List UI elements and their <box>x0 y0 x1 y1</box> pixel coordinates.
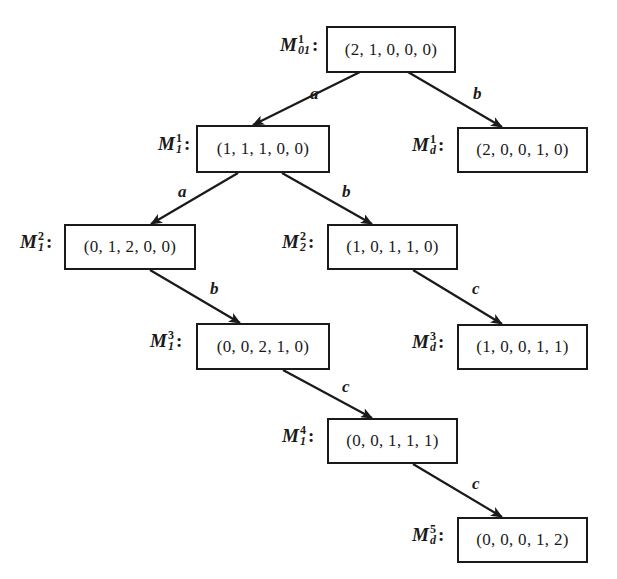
node-box-M01-1: (2, 1, 0, 0, 0) <box>326 26 456 73</box>
node-subscript: d <box>430 145 436 156</box>
node-label-M1-1: M 11 : <box>158 133 190 155</box>
edge-M01-Md-1 <box>408 72 502 127</box>
edge-label: c <box>472 279 480 299</box>
node-subscript: 1 <box>176 144 182 155</box>
edge-label: b <box>210 279 219 299</box>
node-box-M1-2: (0, 1, 2, 0, 0) <box>64 224 196 270</box>
node-symbol: M <box>20 231 37 253</box>
node-label-Md-5: M 5d : <box>412 524 444 546</box>
edge-label: c <box>472 474 480 494</box>
node-subscript: 1 <box>168 341 174 352</box>
edge-label: c <box>342 377 350 397</box>
node-symbol: M <box>280 34 297 56</box>
node-symbol: M <box>282 425 299 447</box>
node-label-Md-3: M 3d : <box>412 331 444 353</box>
node-subscript: 1 <box>38 242 44 253</box>
node-symbol: M <box>412 524 429 546</box>
reachability-tree-diagram: a b a b b c c c M 101 : (2, 1, 0, 0, 0) … <box>0 0 617 579</box>
node-box-M1-4: (0, 0, 1, 1, 1) <box>327 418 458 464</box>
node-label-M1-3: M 31 : <box>150 330 182 352</box>
node-subscript: d <box>430 342 436 353</box>
node-box-M1-1: (1, 1, 1, 0, 0) <box>196 125 330 173</box>
edge-M1-1-M1-2 <box>151 173 238 224</box>
node-symbol: M <box>412 134 429 156</box>
node-symbol: M <box>412 331 429 353</box>
edge-M01-M1-1 <box>253 72 360 125</box>
node-symbol: M <box>150 330 167 352</box>
node-box-Md-3: (1, 0, 0, 1, 1) <box>457 324 588 370</box>
node-subscript: d <box>430 535 436 546</box>
edge-M1-2-M1-3 <box>150 270 240 323</box>
node-label-M1-2: M 21 : <box>20 231 52 253</box>
edges-layer <box>0 0 617 579</box>
edge-label: b <box>473 84 482 104</box>
edge-label: a <box>178 182 187 202</box>
edge-M1-4-Md-5 <box>413 464 502 517</box>
node-symbol: M <box>282 231 299 253</box>
node-subscript: 01 <box>298 45 310 56</box>
node-subscript: 2 <box>300 242 306 253</box>
node-box-M2-2: (1, 0, 1, 1, 0) <box>327 224 458 270</box>
edge-M1-1-M2-2 <box>282 173 372 224</box>
edge-label: b <box>342 182 351 202</box>
node-label-M2-2: M 22 : <box>282 231 314 253</box>
edge-label: a <box>310 84 319 104</box>
edge-M2-2-Md-3 <box>413 270 502 324</box>
node-symbol: M <box>158 133 175 155</box>
node-label-Md-1: M 1d : <box>412 134 444 156</box>
node-label-M01-1: M 101 : <box>280 34 318 56</box>
node-label-M1-4: M 41 : <box>282 425 314 447</box>
node-box-Md-1: (2, 0, 0, 1, 0) <box>457 127 588 173</box>
node-subscript: 1 <box>300 436 306 447</box>
node-box-Md-5: (0, 0, 0, 1, 2) <box>457 517 588 563</box>
edge-M1-3-M1-4 <box>283 370 372 418</box>
node-box-M1-3: (0, 0, 2, 1, 0) <box>196 323 330 370</box>
